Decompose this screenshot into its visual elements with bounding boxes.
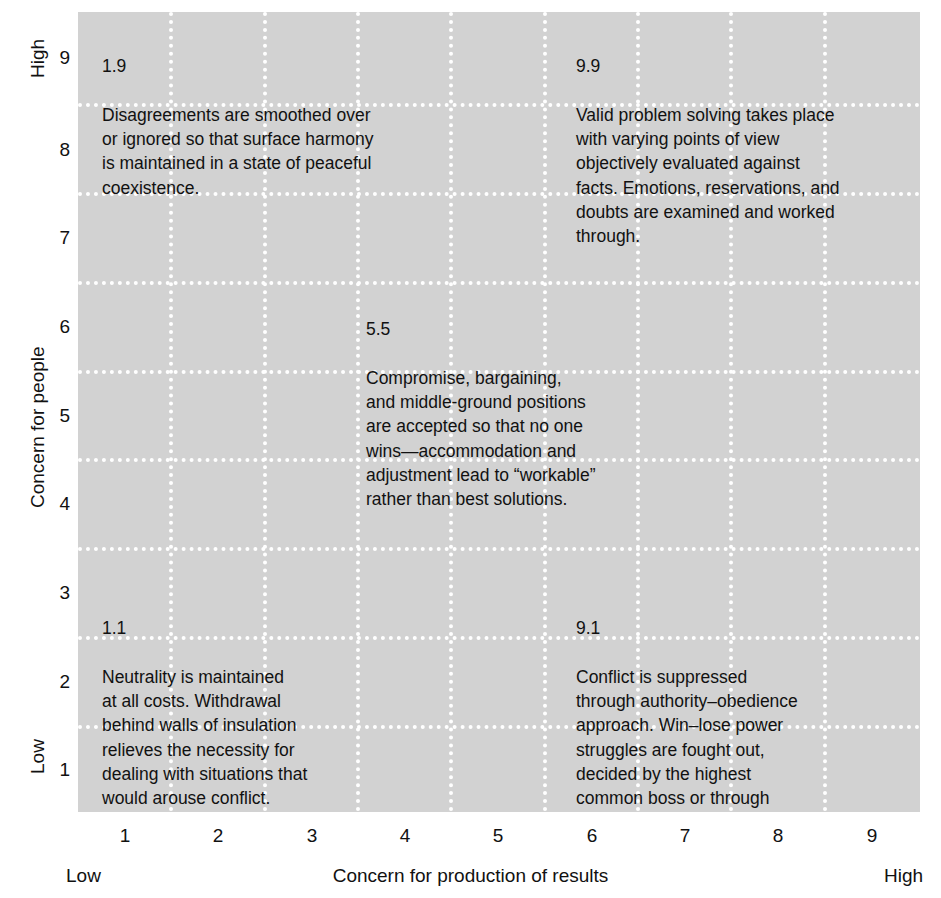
cell-text-5-5: Compromise, bargaining, and middle-groun… — [366, 366, 686, 512]
cell-code-9-1: 9.1 — [576, 616, 906, 640]
x-axis-tick-6: 6 — [572, 826, 612, 845]
y-axis-tick-7: 7 — [42, 228, 70, 247]
y-axis-low-label: Low — [28, 739, 47, 774]
x-axis-tick-8: 8 — [758, 826, 798, 845]
cell-code-5-5: 5.5 — [366, 317, 686, 341]
x-axis-tick-4: 4 — [385, 826, 425, 845]
cell-text-9-9: Valid problem solving takes place with v… — [576, 103, 906, 249]
x-axis-tick-9: 9 — [852, 826, 892, 845]
cell-code-1-1: 1.1 — [102, 616, 420, 640]
cell-block-9-1: 9.1 Conflict is suppressed through autho… — [576, 592, 906, 812]
cell-code-1-9: 1.9 — [102, 54, 432, 78]
gridline-horizontal — [78, 281, 920, 285]
cell-block-1-9: 1.9 Disagreements are smoothed over or i… — [102, 30, 432, 224]
x-axis-tick-5: 5 — [478, 826, 518, 845]
gridline-horizontal — [78, 547, 920, 551]
x-axis-high-label: High — [884, 866, 923, 885]
y-axis-high-label: High — [28, 39, 47, 78]
cell-text-1-1: Neutrality is maintained at all costs. W… — [102, 665, 420, 811]
y-axis-title: Concern for people — [28, 346, 47, 508]
y-axis-tick-6: 6 — [42, 317, 70, 336]
cell-block-9-9: 9.9 Valid problem solving takes place wi… — [576, 30, 906, 273]
x-axis-tick-2: 2 — [198, 826, 238, 845]
cell-block-5-5: 5.5 Compromise, bargaining, and middle-g… — [366, 293, 686, 536]
y-axis-tick-2: 2 — [42, 672, 70, 691]
grid-plot-area: 1.9 Disagreements are smoothed over or i… — [78, 12, 920, 812]
cell-code-9-9: 9.9 — [576, 54, 906, 78]
x-axis-title: Concern for production of results — [0, 866, 941, 885]
y-axis-tick-3: 3 — [42, 583, 70, 602]
x-axis-tick-7: 7 — [665, 826, 705, 845]
cell-text-9-1: Conflict is suppressed through authority… — [576, 665, 906, 812]
cell-block-1-1: 1.1 Neutrality is maintained at all cost… — [102, 592, 420, 812]
x-axis-tick-1: 1 — [105, 826, 145, 845]
x-axis-tick-3: 3 — [292, 826, 332, 845]
cell-text-1-9: Disagreements are smoothed over or ignor… — [102, 103, 432, 200]
y-axis-tick-8: 8 — [42, 140, 70, 159]
